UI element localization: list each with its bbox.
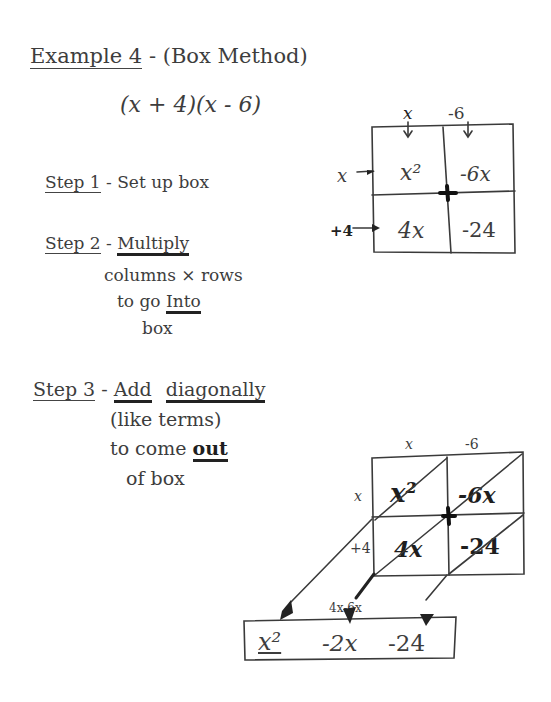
drawing-layer bbox=[0, 0, 551, 702]
